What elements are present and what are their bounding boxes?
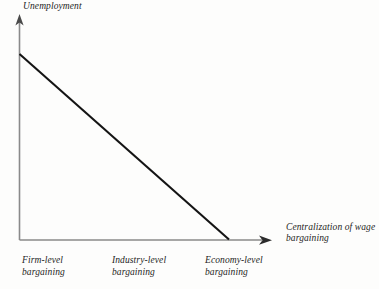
chart-plot-area — [0, 0, 379, 289]
x-tick-label-economy-level: Economy-level bargaining — [205, 255, 263, 278]
unemployment-curve — [20, 54, 230, 240]
x-axis-title: Centralization of wage bargaining — [286, 222, 375, 244]
unemployment-centralization-diagram: Unemployment Centralization of wage barg… — [0, 0, 379, 289]
y-axis-title: Unemployment — [23, 1, 82, 12]
x-tick-label-firm-level: Firm-level bargaining — [22, 255, 65, 278]
x-tick-label-industry-level: Industry-level bargaining — [112, 255, 166, 278]
